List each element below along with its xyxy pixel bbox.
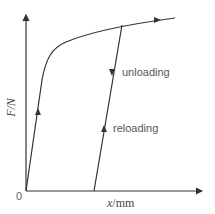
plastic-arrow-icon (154, 17, 161, 23)
x-axis-unit: /mm (112, 196, 134, 210)
y-axis-label: F/N (4, 98, 19, 117)
x-axis-label: x/mm (107, 196, 134, 211)
force-extension-plot (0, 0, 215, 214)
reloading-arrow-icon (101, 125, 107, 132)
reloading-label: reloading (113, 122, 158, 134)
loading-arrow-icon (35, 108, 41, 115)
loading-curve (26, 18, 175, 191)
unloading-line (94, 25, 122, 191)
axes (26, 15, 202, 191)
origin-label: 0 (16, 190, 22, 202)
unloading-label: unloading (122, 66, 170, 78)
